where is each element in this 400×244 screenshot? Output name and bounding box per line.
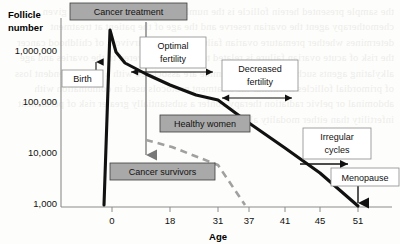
annotation-healthy-women[interactable]: Healthy women: [160, 115, 250, 132]
annotation-cancer-treatment[interactable]: Cancer treatment: [70, 3, 187, 20]
irregular-cycles-label-line2: cycles: [324, 145, 350, 155]
y-axis-title-line1: Follicle: [8, 9, 41, 20]
healthy-women-label: Healthy women: [174, 119, 236, 129]
y-tick-label: 100,000: [23, 96, 57, 107]
annotation-birth[interactable]: Birth: [62, 62, 103, 87]
x-tick-label: 41: [280, 215, 291, 226]
optimal-fertility-label-line1: Optimal: [157, 41, 188, 51]
x-tick-label: 0: [109, 215, 114, 226]
cancer-treatment-label: Cancer treatment: [94, 7, 164, 17]
x-tick-labels: 0 18 31 37 41 45 51: [109, 215, 363, 226]
x-tick-label: 18: [165, 215, 176, 226]
x-tick-label: 37: [244, 215, 255, 226]
decreased-fertility-label-line2: fertility: [247, 77, 274, 87]
y-axis-title: Follicle number: [8, 9, 43, 33]
annotation-cancer-survivors[interactable]: Cancer survivors: [110, 163, 215, 180]
y-tick-label: 10,000: [28, 147, 57, 158]
cancer-survivors-label: Cancer survivors: [129, 167, 197, 177]
birth-label: Birth: [73, 74, 92, 84]
x-tick-label: 31: [213, 215, 224, 226]
x-tick-label: 45: [315, 215, 326, 226]
x-tick-label: 51: [353, 215, 364, 226]
optimal-fertility-label-line2: fertility: [160, 54, 187, 64]
x-tick-marks: [112, 207, 358, 212]
irregular-cycles-label-line1: Irregular: [320, 132, 354, 142]
decreased-fertility-label-line1: Decreased: [238, 64, 282, 74]
chart-svg: 1,000,000 100,000 10,000 1,000 Follicle …: [0, 0, 400, 244]
y-tick-labels: 1,000,000 100,000 10,000 1,000: [15, 45, 57, 209]
x-axis-title: Age: [209, 231, 227, 242]
follicle-number-chart: the sample presented herein follicle is …: [0, 0, 400, 244]
y-tick-label: 1,000: [33, 198, 57, 209]
annotation-menopause[interactable]: Menopause: [331, 168, 399, 203]
menopause-label: Menopause: [341, 173, 388, 183]
annotation-irregular-cycles[interactable]: Irregular cycles: [300, 128, 371, 164]
y-tick-label: 1,000,000: [15, 45, 57, 56]
annotation-optimal-fertility[interactable]: Optimal fertility: [131, 37, 213, 72]
y-axis-title-line2: number: [8, 22, 43, 33]
annotation-decreased-fertility[interactable]: Decreased fertility: [222, 60, 298, 98]
